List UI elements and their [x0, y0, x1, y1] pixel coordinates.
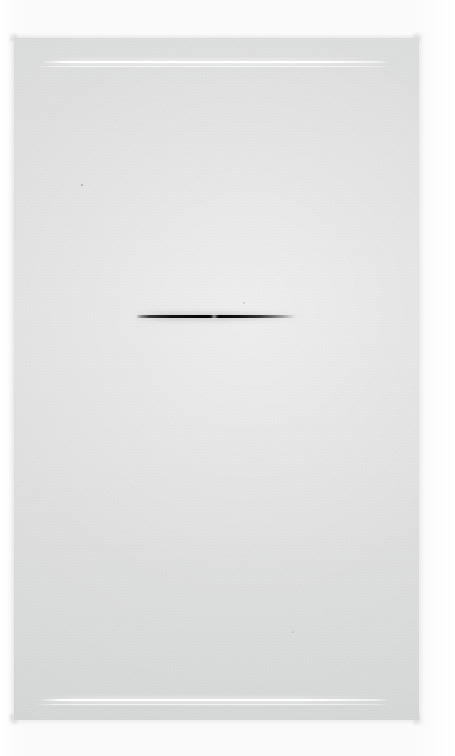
- rule-line-bottom-secondary-core: [34, 704, 392, 705]
- rule-line-bottom-secondary: [34, 704, 392, 705]
- rule-line-bottom: [40, 699, 390, 701]
- rule-line-top-core: [42, 61, 390, 63]
- rule-line-top: [42, 61, 390, 63]
- rule-line-top-secondary: [36, 66, 392, 67]
- center-stroke-left-segment: [136, 315, 220, 318]
- rule-line-bottom-core: [40, 699, 390, 701]
- center-stroke-right-segment: [220, 315, 296, 318]
- paper-grain-texture: [14, 38, 419, 720]
- rule-line-top-secondary-core: [36, 66, 392, 67]
- dust-speck: [292, 631, 294, 633]
- dust-speck: [243, 302, 245, 304]
- dust-speck: [81, 184, 83, 186]
- scan-viewport: Blank scanned page with a single dark ho…: [0, 0, 455, 756]
- center-stroke: [132, 306, 300, 328]
- center-stroke-gap: [211, 314, 218, 319]
